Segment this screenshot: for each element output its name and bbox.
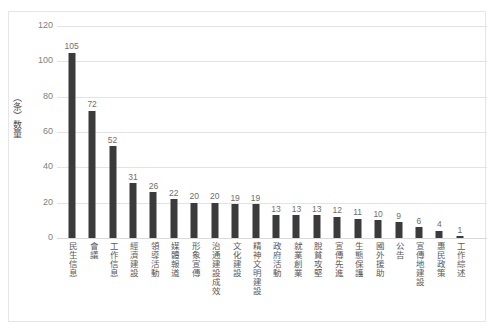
x-category-label: 工作信息 (108, 242, 117, 278)
bar[interactable] (89, 111, 96, 238)
bar[interactable] (313, 215, 320, 238)
x-label-slot: 民生信息 (61, 242, 81, 328)
bar-value-label: 10 (373, 210, 382, 219)
bar-slot[interactable]: 10 (368, 26, 388, 238)
bar-slot[interactable]: 6 (409, 26, 429, 238)
bar-slot[interactable]: 26 (143, 26, 163, 238)
x-category-label: 公告 (394, 242, 403, 260)
bar[interactable] (191, 203, 198, 238)
x-category-label: 國外援助 (374, 242, 383, 278)
bar[interactable] (293, 215, 300, 238)
x-category-label: 精神文明建設 (251, 242, 260, 296)
bar-chart-figure: （条）数量 020406080100120 105725231262220201… (0, 0, 498, 331)
bar[interactable] (456, 236, 463, 238)
x-category-label: 生態保護 (353, 242, 362, 278)
bar[interactable] (252, 204, 259, 238)
bar[interactable] (334, 217, 341, 238)
bar-slot[interactable]: 72 (82, 26, 102, 238)
bar-slot[interactable]: 13 (286, 26, 306, 238)
x-label-slot: 惠民政策 (429, 242, 449, 328)
x-label-slot: 文化建設 (225, 242, 245, 328)
bar[interactable] (354, 219, 361, 238)
bar-value-label: 11 (353, 208, 362, 217)
bar[interactable] (211, 203, 218, 238)
x-label-slot: 國外援助 (368, 242, 388, 328)
bar-slot[interactable]: 22 (164, 26, 184, 238)
bar-value-label: 19 (251, 194, 260, 203)
bar-value-label: 9 (396, 212, 401, 221)
x-label-slot: 就業創業 (286, 242, 306, 328)
x-category-label: 惠民政策 (435, 242, 444, 278)
bar-value-label: 19 (230, 194, 239, 203)
x-label-slot: 生態保護 (347, 242, 367, 328)
bar[interactable] (375, 220, 382, 238)
x-category-label: 媒體報道 (169, 242, 178, 278)
bar[interactable] (129, 183, 136, 238)
bar[interactable] (415, 227, 422, 238)
bar-value-label: 1 (457, 226, 462, 235)
bar-value-label: 105 (65, 42, 79, 51)
bar-slot[interactable]: 20 (204, 26, 224, 238)
x-label-slot: 工作綜述 (450, 242, 470, 328)
x-label-slot: 經濟建設 (123, 242, 143, 328)
bar-value-label: 26 (149, 182, 158, 191)
x-label-slot: 政府活動 (266, 242, 286, 328)
x-label-slot: 公告 (388, 242, 408, 328)
x-label-slot: 會議 (82, 242, 102, 328)
bar-value-label: 20 (190, 192, 199, 201)
bar[interactable] (272, 215, 279, 238)
bar-value-label: 22 (169, 189, 178, 198)
bar[interactable] (109, 146, 116, 238)
x-category-label: 文化建設 (231, 242, 240, 278)
bar-value-label: 13 (312, 205, 321, 214)
x-label-slot: 媒體報道 (164, 242, 184, 328)
x-axis-baseline (57, 238, 487, 239)
bar-slot[interactable]: 4 (429, 26, 449, 238)
bar-slot[interactable]: 52 (102, 26, 122, 238)
bar-value-label: 31 (128, 173, 137, 182)
bar-value-label: 52 (108, 136, 117, 145)
bar-slot[interactable]: 19 (225, 26, 245, 238)
bar[interactable] (170, 199, 177, 238)
x-category-label: 形象宣傳 (190, 242, 199, 278)
bar[interactable] (436, 231, 443, 238)
x-category-label: 民生信息 (67, 242, 76, 278)
bar[interactable] (150, 192, 157, 238)
x-label-slot: 工作信息 (102, 242, 122, 328)
bar-slot[interactable]: 12 (327, 26, 347, 238)
x-category-label: 會議 (88, 242, 97, 260)
bar[interactable] (68, 53, 75, 239)
bar-slot[interactable]: 13 (266, 26, 286, 238)
bar[interactable] (232, 204, 239, 238)
bar-slot[interactable]: 20 (184, 26, 204, 238)
x-axis-category-labels: 民生信息會議工作信息經濟建設領導活動媒體報道形象宣傳治通建設成效文化建設精神文明… (57, 242, 487, 328)
x-category-label: 經濟建設 (129, 242, 138, 278)
bar[interactable] (395, 222, 402, 238)
x-label-slot: 宣傳先進 (327, 242, 347, 328)
bar-slot[interactable]: 9 (388, 26, 408, 238)
x-category-label: 宣傳地建設 (415, 242, 424, 287)
bar-slot[interactable]: 11 (347, 26, 367, 238)
x-label-slot: 脫貧攻堅 (307, 242, 327, 328)
x-category-label: 工作綜述 (455, 242, 464, 278)
bar-slot[interactable]: 19 (245, 26, 265, 238)
bar-value-label: 6 (417, 217, 422, 226)
bar-slot[interactable]: 13 (307, 26, 327, 238)
x-label-slot: 形象宣傳 (184, 242, 204, 328)
bar-value-label: 72 (87, 100, 96, 109)
bar-slot[interactable]: 1 (450, 26, 470, 238)
x-category-label: 脫貧攻堅 (312, 242, 321, 278)
y-tick-label: 100 (23, 56, 53, 65)
x-category-label: 就業創業 (292, 242, 301, 278)
y-tick-label: 0 (23, 233, 53, 242)
bars-layer: 1057252312622202019191313131211109641 (57, 26, 487, 238)
x-category-label: 領導活動 (149, 242, 158, 278)
bar-value-label: 20 (210, 192, 219, 201)
bar-slot[interactable]: 105 (61, 26, 81, 238)
bar-slot[interactable]: 31 (123, 26, 143, 238)
x-label-slot: 精神文明建設 (245, 242, 265, 328)
y-axis-tick-labels: 020406080100120 (17, 26, 53, 238)
bar-value-label: 13 (271, 205, 280, 214)
x-category-label: 治通建設成效 (210, 242, 219, 296)
y-tick-label: 120 (23, 21, 53, 30)
